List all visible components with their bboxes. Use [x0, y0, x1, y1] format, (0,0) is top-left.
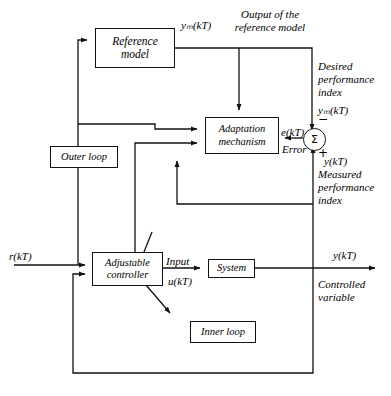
label-reference-input: r(kT): [9, 250, 32, 263]
label-measured-index-signal: y(kT): [324, 155, 347, 168]
label-plant-output: y(kT): [333, 249, 356, 262]
block-outer-loop-label: Outer loop: [61, 151, 107, 163]
label-controlled-variable: Controlled variable: [318, 278, 365, 304]
block-reference-model[interactable]: Reference model: [95, 28, 175, 68]
wire-controller-to-adaptation: [135, 143, 197, 268]
wire-measured-to-adaptation: [177, 161, 313, 204]
block-adaptation-mechanism-label: Adaptation mechanism: [218, 123, 265, 147]
block-adjustable-controller[interactable]: Adjustable controller: [92, 252, 163, 286]
block-system[interactable]: System: [208, 259, 255, 278]
label-control-input-signal: u(kT): [168, 275, 192, 288]
label-model-output-note: Output of the reference model: [215, 8, 325, 34]
block-diagram-canvas: Reference model Adaptation mechanism Out…: [0, 0, 391, 396]
sigma-icon: Σ: [311, 133, 318, 146]
wire-adaptation-arrow-controller: [146, 285, 170, 313]
block-inner-loop[interactable]: Inner loop: [190, 321, 256, 343]
block-reference-model-label: Reference model: [112, 35, 158, 61]
label-desired-index-signal: yₘ(kT): [318, 104, 348, 117]
block-inner-loop-label: Inner loop: [201, 326, 245, 338]
label-model-output: yₘ(kT): [181, 19, 211, 32]
wire-adaptation-arrow-into-controller: [144, 232, 152, 252]
label-error-note: Error: [282, 143, 307, 156]
label-error-signal: e(kT): [281, 126, 304, 139]
block-adaptation-mechanism[interactable]: Adaptation mechanism: [205, 117, 279, 154]
label-desired-performance-index: Desired performance index: [318, 60, 374, 99]
block-adjustable-controller-label: Adjustable controller: [105, 257, 150, 281]
wire-outer-loop-to-adaptation: [78, 124, 197, 129]
block-outer-loop[interactable]: Outer loop: [50, 146, 118, 168]
label-control-input: Input: [166, 255, 189, 268]
block-system-label: System: [217, 262, 246, 274]
label-measured-performance-index: Measured performance index: [318, 168, 374, 207]
